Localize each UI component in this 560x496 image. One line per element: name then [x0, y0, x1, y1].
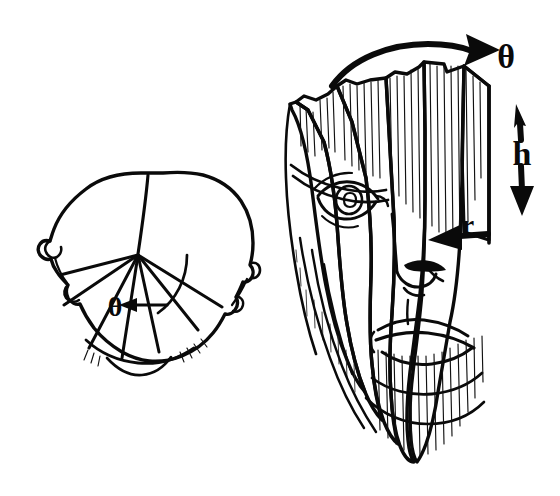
h-label: h: [513, 135, 532, 172]
philtrum-line: [407, 300, 408, 324]
theta-label-unwrapped: θ: [497, 38, 515, 75]
r-label: r: [462, 209, 474, 240]
figure-canvas: Cylindrical head unwrapping diagram: [0, 0, 560, 496]
theta-label-top-view: θ: [108, 291, 123, 322]
